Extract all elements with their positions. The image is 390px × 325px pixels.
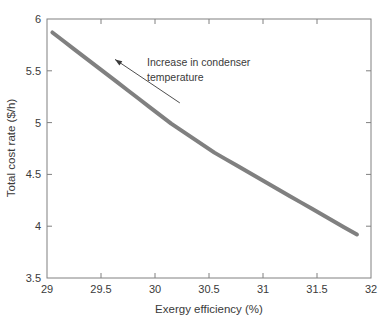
x-axis-title: Exergy efficiency (%) <box>155 303 263 315</box>
chart-svg: 2929.53030.53131.532 3.544.555.56 Increa… <box>0 0 390 325</box>
x-tick-labels: 2929.53030.53131.532 <box>41 283 377 295</box>
x-tick-label: 30.5 <box>198 283 219 295</box>
y-axis-title: Total cost rate ($/h) <box>5 99 17 198</box>
y-tick-label: 4 <box>35 220 41 232</box>
y-tick-label: 4.5 <box>26 168 41 180</box>
chart-background <box>0 0 390 325</box>
x-tick-label: 31.5 <box>306 283 327 295</box>
y-tick-label: 5.5 <box>26 65 41 77</box>
y-tick-label: 5 <box>35 117 41 129</box>
y-tick-label: 3.5 <box>26 272 41 284</box>
x-tick-label: 31 <box>257 283 269 295</box>
x-tick-label: 30 <box>149 283 161 295</box>
x-tick-label: 32 <box>365 283 377 295</box>
annotation-text-line2: temperature <box>147 71 204 83</box>
x-tick-label: 29.5 <box>90 283 111 295</box>
x-tick-label: 29 <box>41 283 53 295</box>
y-tick-label: 6 <box>35 13 41 25</box>
annotation-text-line1: Increase in condenser <box>147 56 251 68</box>
chart-figure: 2929.53030.53131.532 3.544.555.56 Increa… <box>0 0 390 325</box>
